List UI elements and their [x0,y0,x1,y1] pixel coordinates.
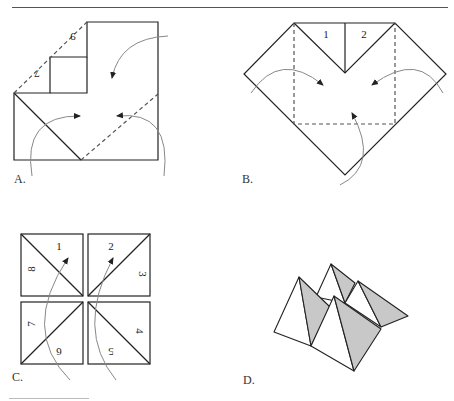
panel-a-number-9: 9 [70,31,76,43]
panel-c-number-8: 8 [25,266,37,272]
panel-d-figure [274,264,408,371]
panel-b-figure [244,23,446,175]
panel-d-label: D. [243,373,255,388]
panel-a-figure [14,22,158,160]
panel-b-number-2: 2 [361,28,367,40]
panel-c-label: C. [12,370,23,385]
panel-b-arrows [251,69,443,185]
fold-diagram: 9 7 1 2 1 2 3 4 5 6 7 8 [0,0,454,401]
panel-c-figure [21,234,150,364]
panel-c-number-1: 1 [56,240,62,252]
panel-c-number-5: 5 [108,346,114,358]
panel-c-number-2: 2 [108,240,114,252]
panel-a-number-7: 7 [34,68,40,80]
panel-c-number-4: 4 [134,328,146,334]
panel-b-number-1: 1 [323,28,329,40]
panel-b-label: B. [242,172,253,187]
panel-c-number-7: 7 [25,321,37,327]
panel-c-number-6: 6 [56,346,62,358]
panel-a-label: A. [14,172,26,187]
panel-c-number-3: 3 [137,271,149,277]
bottom-rule [9,398,89,399]
